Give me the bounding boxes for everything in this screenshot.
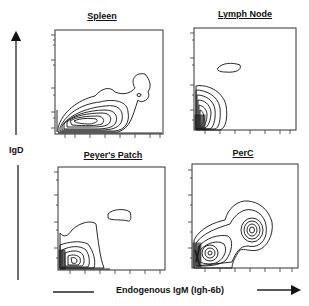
contours-lymph-node [195,63,240,130]
contours-peyers-patch [59,210,131,269]
contours-perc [193,201,272,268]
x-axis-arrow [53,290,296,292]
contour-plots [0,0,309,306]
panel-lymph-node [194,28,296,130]
y-axis-arrow [16,36,18,280]
contours-spleen [57,74,162,133]
